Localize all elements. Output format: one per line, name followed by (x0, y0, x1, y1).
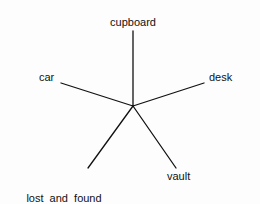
spoke-car (61, 83, 133, 106)
radial-diagram: cupboard car desk lost and found departm… (0, 0, 260, 204)
spoke-desk (133, 83, 204, 106)
label-lost-and-found: lost and found department (16, 168, 112, 204)
label-desk: desk (209, 71, 232, 83)
label-lost-and-found-line1: lost and found (16, 192, 112, 204)
spoke-lost-and-found (88, 106, 133, 168)
label-vault: vault (167, 170, 190, 182)
label-car: car (39, 71, 54, 83)
hub (132, 105, 134, 107)
spoke-vault (133, 106, 176, 168)
label-cupboard: cupboard (102, 16, 164, 28)
